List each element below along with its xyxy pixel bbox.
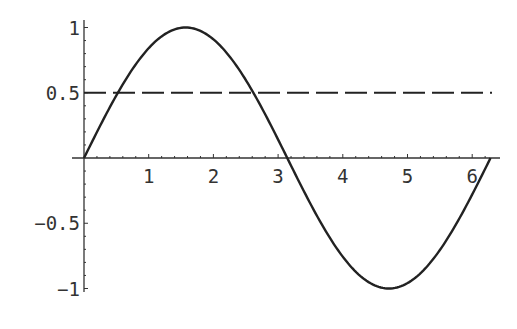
x-tick-label: 2 <box>208 165 219 187</box>
x-tick-label: 6 <box>466 165 477 187</box>
x-tick-label: 1 <box>143 165 154 187</box>
x-tick-label: 3 <box>272 165 283 187</box>
x-tick-label: 4 <box>337 165 348 187</box>
x-tick-label: 5 <box>402 165 413 187</box>
y-tick-label: 0.5 <box>46 82 80 104</box>
y-tick-label: −1 <box>57 278 80 300</box>
y-tick-label: −0.5 <box>34 212 80 234</box>
plot-area: 12345610.5−0.5−1 <box>0 0 517 329</box>
y-tick-label: 1 <box>69 17 80 39</box>
